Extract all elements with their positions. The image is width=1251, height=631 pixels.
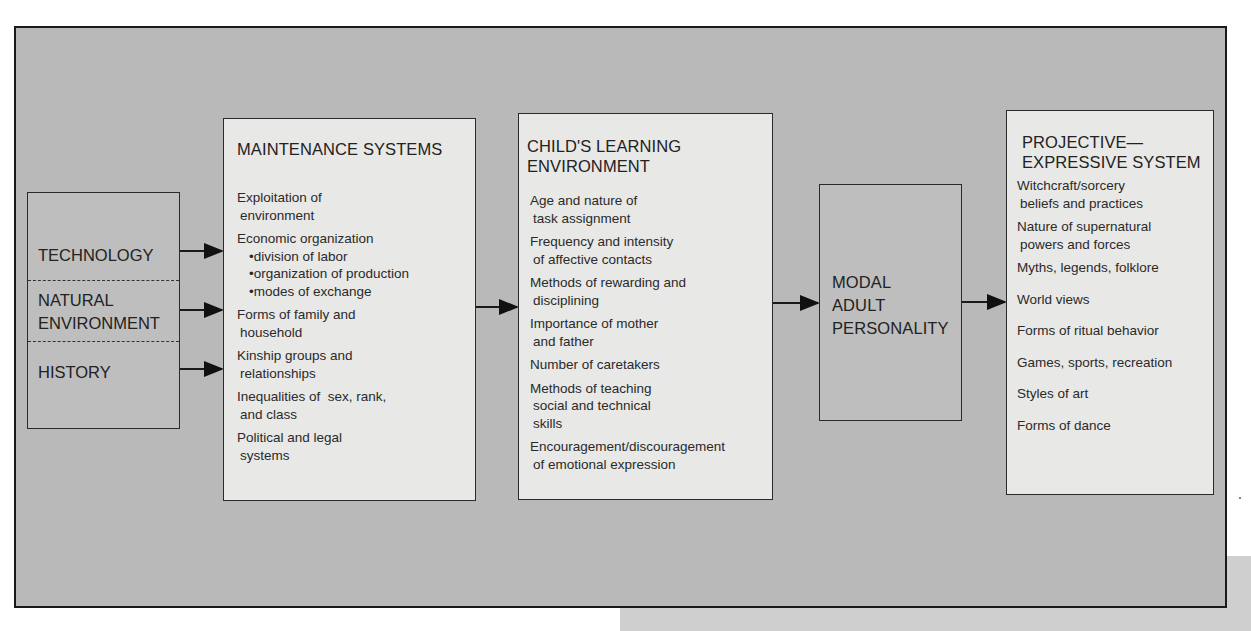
projective-item: Styles of art — [1017, 385, 1172, 403]
input-technology: TECHNOLOGY — [28, 193, 179, 281]
item-line: skills — [530, 415, 725, 433]
item-line: task assignment — [530, 210, 725, 228]
item-line: beliefs and practices — [1017, 195, 1172, 213]
item-line: Methods of teaching — [530, 381, 652, 396]
item-line: powers and forces — [1017, 236, 1172, 254]
input-natural-environment: NATURAL ENVIRONMENT — [28, 281, 179, 342]
title-line: EXPRESSIVE SYSTEM — [1022, 152, 1201, 172]
maintenance-item: Exploitation of environment — [237, 189, 409, 224]
item-line: Games, sports, recreation — [1017, 355, 1172, 370]
item-line: Political and legal — [237, 430, 342, 445]
child-item: Encouragement/discouragement of emotiona… — [530, 438, 725, 473]
title-line: PERSONALITY — [832, 317, 949, 340]
modal-title: MODAL ADULT PERSONALITY — [832, 271, 949, 340]
sub-item: •modes of exchange — [237, 283, 409, 301]
inputs-box: TECHNOLOGY NATURAL ENVIRONMENT HISTORY — [27, 192, 180, 429]
title-line: CHILD'S LEARNING — [527, 136, 681, 156]
item-line: of emotional expression — [530, 456, 725, 474]
childs-learning-environment-box: CHILD'S LEARNING ENVIRONMENT Age and nat… — [518, 113, 773, 500]
projective-item: Forms of dance — [1017, 417, 1172, 435]
input-label: NATURAL — [38, 289, 114, 311]
maintenance-title: MAINTENANCE SYSTEMS — [237, 139, 442, 159]
arrow-maintenance-to-child — [476, 306, 517, 308]
child-item: Frequency and intensity of affective con… — [530, 233, 725, 268]
item-line: relationships — [237, 365, 409, 383]
child-item: Methods of rewarding and disciplining — [530, 274, 725, 309]
item-line: Encouragement/discouragement — [530, 439, 725, 454]
maintenance-item: Forms of family and household — [237, 306, 409, 341]
item-line: Forms of dance — [1017, 418, 1111, 433]
item-line: and class — [237, 406, 409, 424]
item-line: social and technical — [530, 397, 725, 415]
child-item: Methods of teaching social and technical… — [530, 380, 725, 433]
item-line: environment — [237, 207, 409, 225]
projective-title: PROJECTIVE— EXPRESSIVE SYSTEM — [1022, 132, 1201, 172]
item-line: Importance of mother — [530, 316, 658, 331]
child-item: Importance of mother and father — [530, 315, 725, 350]
item-line: and father — [530, 333, 725, 351]
item-line: Forms of family and — [237, 307, 356, 322]
sub-item: •division of labor — [237, 248, 409, 266]
item-line: Forms of ritual behavior — [1017, 323, 1159, 338]
arrow-modal-to-projective — [962, 301, 1005, 303]
item-line: Kinship groups and — [237, 348, 353, 363]
item-line: Styles of art — [1017, 386, 1088, 401]
title-line: ENVIRONMENT — [527, 156, 681, 176]
projective-item: Myths, legends, folklore — [1017, 259, 1172, 277]
projective-item: Games, sports, recreation — [1017, 354, 1172, 372]
projective-expressive-system-box: PROJECTIVE— EXPRESSIVE SYSTEM Witchcraft… — [1006, 110, 1214, 495]
item-line: Age and nature of — [530, 193, 637, 208]
child-item: Number of caretakers — [530, 356, 725, 374]
item-line: household — [237, 324, 409, 342]
child-item: Age and nature of task assignment — [530, 192, 725, 227]
title-line: ADULT — [832, 294, 949, 317]
item-line: World views — [1017, 292, 1090, 307]
arrow-history-to-maintenance — [180, 368, 222, 370]
item-line: Witchcraft/sorcery — [1017, 178, 1125, 193]
maintenance-item: Kinship groups and relationships — [237, 347, 409, 382]
item-line: Number of caretakers — [530, 357, 660, 372]
item-line: disciplining — [530, 292, 725, 310]
input-label: ENVIRONMENT — [38, 312, 160, 334]
maintenance-systems-box: MAINTENANCE SYSTEMS Exploitation of envi… — [223, 118, 476, 501]
arrow-technology-to-maintenance — [180, 250, 222, 252]
maintenance-item: Political and legal systems — [237, 429, 409, 464]
input-history: HISTORY — [28, 342, 179, 428]
input-label: TECHNOLOGY — [38, 244, 154, 266]
stray-dot — [1239, 497, 1241, 499]
item-line: of affective contacts — [530, 251, 725, 269]
item-line: Economic organization — [237, 231, 374, 246]
title-line: PROJECTIVE— — [1022, 132, 1201, 152]
sub-item: •organization of production — [237, 265, 409, 283]
item-line: Myths, legends, folklore — [1017, 260, 1159, 275]
input-label: HISTORY — [38, 361, 111, 383]
item-line: systems — [237, 447, 409, 465]
maintenance-item: Inequalities of sex, rank, and class — [237, 388, 409, 423]
projective-item: World views — [1017, 291, 1172, 309]
arrow-child-to-modal — [773, 302, 818, 304]
item-line: Frequency and intensity — [530, 234, 673, 249]
projective-item: Nature of supernatural powers and forces — [1017, 218, 1172, 253]
item-line: Methods of rewarding and — [530, 275, 686, 290]
projective-item: Forms of ritual behavior — [1017, 322, 1172, 340]
arrow-environment-to-maintenance — [180, 309, 222, 311]
projective-item: Witchcraft/sorcery beliefs and practices — [1017, 177, 1172, 212]
item-line: Exploitation of — [237, 190, 322, 205]
item-line: Inequalities of sex, rank, — [237, 389, 386, 404]
child-title: CHILD'S LEARNING ENVIRONMENT — [527, 136, 681, 176]
modal-adult-personality-box: MODAL ADULT PERSONALITY — [819, 184, 962, 421]
maintenance-item: Economic organization •division of labor… — [237, 230, 409, 300]
item-line: Nature of supernatural — [1017, 219, 1151, 234]
title-line: MODAL — [832, 271, 949, 294]
